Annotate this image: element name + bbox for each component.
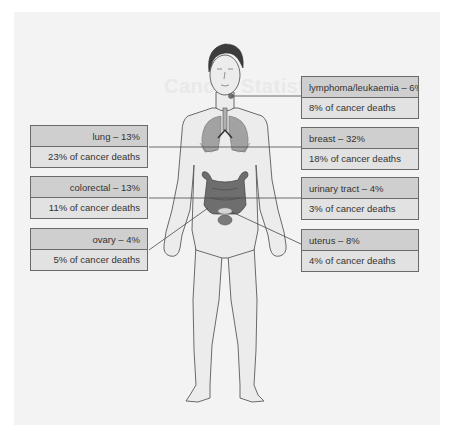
label-deaths: 11% of cancer deaths	[31, 198, 147, 218]
label-breast: breast – 32% 18% of cancer deaths	[301, 127, 419, 170]
bladder	[218, 215, 232, 225]
label-site: lung – 13%	[31, 126, 147, 147]
label-site: breast – 32%	[302, 128, 418, 149]
label-site: lymphoma/leukaemia – 6%	[302, 77, 418, 98]
label-deaths: 23% of cancer deaths	[31, 147, 147, 167]
label-site: urinary tract – 4%	[302, 178, 418, 199]
label-deaths: 4% of cancer deaths	[302, 251, 418, 271]
label-lung: lung – 13% 23% of cancer deaths	[30, 125, 148, 168]
label-urinary-tract: urinary tract – 4% 3% of cancer deaths	[301, 177, 419, 220]
ovaries	[218, 208, 232, 214]
label-deaths: 8% of cancer deaths	[302, 98, 418, 118]
label-ovary: ovary – 4% 5% of cancer deaths	[30, 228, 148, 271]
label-deaths: 5% of cancer deaths	[31, 250, 147, 270]
label-site: colorectal – 13%	[31, 177, 147, 198]
label-deaths: 18% of cancer deaths	[302, 149, 418, 169]
label-site: uterus – 8%	[302, 230, 418, 251]
label-site: ovary – 4%	[31, 229, 147, 250]
label-colorectal: colorectal – 13% 11% of cancer deaths	[30, 176, 148, 219]
label-uterus: uterus – 8% 4% of cancer deaths	[301, 229, 419, 272]
label-deaths: 3% of cancer deaths	[302, 199, 418, 219]
label-lymphoma-leukaemia: lymphoma/leukaemia – 6% 8% of cancer dea…	[301, 76, 419, 119]
